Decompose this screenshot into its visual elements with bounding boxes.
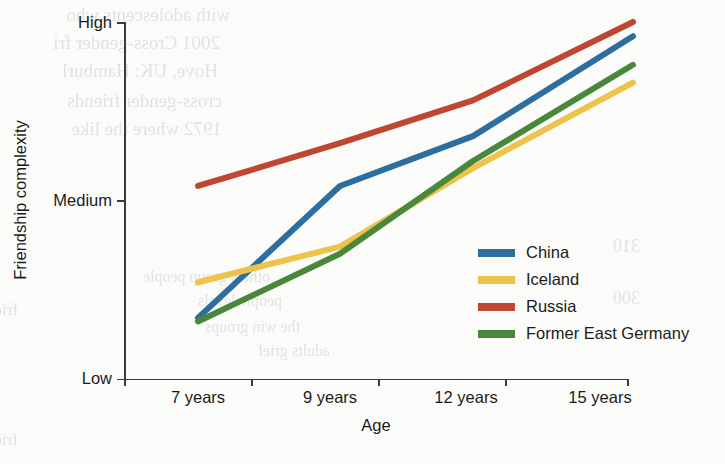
legend-swatch-china bbox=[478, 249, 515, 257]
legend-item-china[interactable]: China bbox=[478, 239, 689, 266]
chart-legend: China Iceland Russia Former East Germany bbox=[478, 239, 689, 347]
legend-item-former-east-germany[interactable]: Former East Germany bbox=[478, 320, 689, 347]
plot-lines bbox=[0, 0, 725, 464]
legend-item-iceland[interactable]: Iceland bbox=[478, 266, 689, 293]
legend-label-russia: Russia bbox=[526, 297, 576, 316]
legend-swatch-iceland bbox=[478, 276, 515, 284]
legend-swatch-former-east-germany bbox=[478, 330, 515, 338]
legend-swatch-russia bbox=[478, 303, 515, 311]
legend-label-china: China bbox=[526, 243, 569, 262]
chart-page: with adolescents who 2001 Cross-gender f… bbox=[0, 0, 725, 464]
legend-label-iceland: Iceland bbox=[526, 270, 579, 289]
legend-label-former-east-germany: Former East Germany bbox=[526, 324, 689, 343]
line-chart: High Medium Low 7 years 9 years 12 years… bbox=[0, 0, 725, 464]
legend-item-russia[interactable]: Russia bbox=[478, 293, 689, 320]
